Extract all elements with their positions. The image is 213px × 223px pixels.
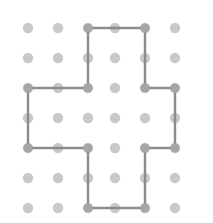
polygon-vertex xyxy=(140,143,149,152)
polygon-vertex xyxy=(23,83,32,92)
lattice-figure xyxy=(0,0,213,223)
lattice-dot xyxy=(23,23,33,33)
lattice-dot xyxy=(23,173,33,183)
polygon-vertex xyxy=(140,203,149,212)
lattice-dot xyxy=(53,113,63,123)
polygon-vertex xyxy=(140,83,149,92)
polygon-vertex xyxy=(83,143,92,152)
polygon-vertex xyxy=(170,83,179,92)
lattice-dot xyxy=(110,113,120,123)
polygon-vertex xyxy=(23,143,32,152)
lattice-dot xyxy=(170,53,180,63)
lattice-dot xyxy=(110,143,120,153)
lattice-dot xyxy=(53,203,63,213)
lattice-dot xyxy=(170,23,180,33)
polygon-vertex xyxy=(83,23,92,32)
figure-container xyxy=(0,0,213,223)
lattice-dot xyxy=(83,113,93,123)
lattice-dot xyxy=(53,53,63,63)
lattice-dot xyxy=(170,173,180,183)
figure-background xyxy=(0,0,213,223)
lattice-dot xyxy=(110,83,120,93)
lattice-dot xyxy=(53,23,63,33)
lattice-dot xyxy=(110,53,120,63)
polygon-vertex xyxy=(140,23,149,32)
lattice-dot xyxy=(170,203,180,213)
polygon-vertex xyxy=(83,83,92,92)
polygon-vertex xyxy=(83,203,92,212)
lattice-dot xyxy=(23,203,33,213)
lattice-dot xyxy=(110,173,120,183)
lattice-dot xyxy=(140,113,150,123)
lattice-dot xyxy=(23,53,33,63)
polygon-vertex xyxy=(170,143,179,152)
lattice-dot xyxy=(53,173,63,183)
